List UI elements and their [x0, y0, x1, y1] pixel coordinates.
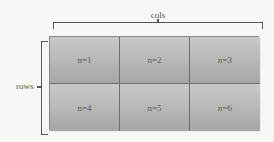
grid-cell-6: n=6 [190, 84, 260, 131]
rows-brace [41, 41, 48, 135]
cols-brace-tick [157, 19, 159, 23]
subplot-grid: n=1 n=2 n=3 n=4 n=5 n=6 [49, 36, 259, 130]
rows-label: rows [16, 81, 34, 91]
grid-cell-1: n=1 [50, 37, 120, 84]
rows-brace-tick [37, 86, 41, 88]
grid-cell-3: n=3 [190, 37, 260, 84]
grid-cell-4: n=4 [50, 84, 120, 131]
grid-cell-2: n=2 [120, 37, 190, 84]
grid-cell-5: n=5 [120, 84, 190, 131]
cols-brace [53, 22, 263, 29]
